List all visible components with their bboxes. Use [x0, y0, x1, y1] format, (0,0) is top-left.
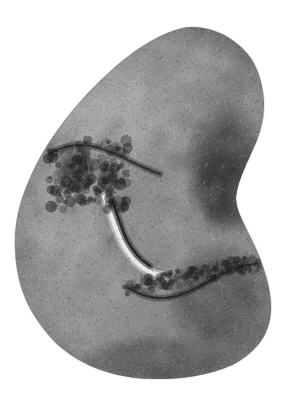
photograph-figure: [0, 0, 288, 396]
stone-photograph-image: [0, 0, 288, 396]
